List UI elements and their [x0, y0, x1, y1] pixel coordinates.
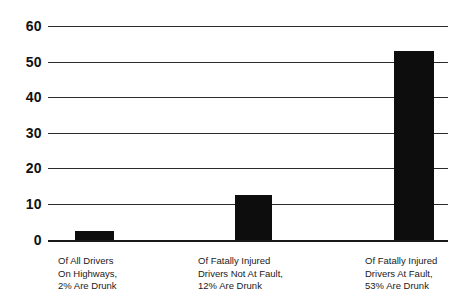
category-labels: Of All Drivers On Highways, 2% Are Drunk…: [0, 252, 475, 301]
ytick-label-60: 60: [2, 19, 42, 33]
ytick-label-50: 50: [2, 55, 42, 69]
category-label-line-2: Drivers At Fault,: [365, 268, 437, 281]
bar-chart: 60 50 40 30 20 10 0 Of All Drivers On Hi…: [0, 0, 475, 301]
gridline-40: [48, 97, 448, 98]
category-label-line-3: 53% Are Drunk: [365, 280, 437, 293]
bar-fatally-injured-not-at-fault: [235, 195, 272, 240]
gridline-50: [48, 62, 448, 63]
category-label-at-fault: Of Fatally Injured Drivers At Fault, 53%…: [365, 255, 437, 293]
ytick-label-10: 10: [2, 197, 42, 211]
category-label-line-3: 12% Are Drunk: [198, 280, 283, 293]
bar-all-drivers: [75, 231, 114, 240]
category-label-line-2: Drivers Not At Fault,: [198, 268, 283, 281]
ytick-label-40: 40: [2, 90, 42, 104]
axis-baseline-0: [48, 240, 448, 242]
category-label-line-3: 2% Are Drunk: [58, 280, 117, 293]
gridline-30: [48, 133, 448, 134]
gridline-20: [48, 168, 448, 169]
bar-fatally-injured-at-fault: [394, 51, 434, 240]
category-label-line-2: On Highways,: [58, 268, 117, 281]
ytick-label-20: 20: [2, 161, 42, 175]
category-label-line-1: Of Fatally Injured: [365, 255, 437, 268]
category-label-line-1: Of Fatally Injured: [198, 255, 283, 268]
gridline-60: [48, 26, 448, 27]
ytick-label-30: 30: [2, 126, 42, 140]
category-label-line-1: Of All Drivers: [58, 255, 117, 268]
category-label-all-drivers: Of All Drivers On Highways, 2% Are Drunk: [58, 255, 117, 293]
plot-area: 60 50 40 30 20 10 0: [0, 0, 475, 250]
category-label-not-at-fault: Of Fatally Injured Drivers Not At Fault,…: [198, 255, 283, 293]
ytick-label-0: 0: [2, 233, 42, 247]
